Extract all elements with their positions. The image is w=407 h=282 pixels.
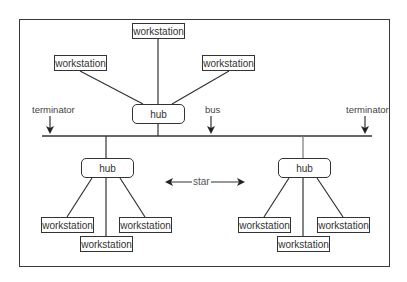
workstation-top-left: workstation [54, 55, 107, 71]
hub-top: hub [132, 104, 185, 124]
workstation-top-right: workstation [202, 55, 255, 71]
workstation-top-center: workstation [132, 23, 185, 39]
workstation-label: workstation [55, 58, 106, 69]
workstation-label: workstation [239, 220, 290, 231]
hub-label: hub [296, 163, 313, 174]
workstation-left-c: workstation [119, 217, 172, 233]
hub-left: hub [81, 158, 134, 178]
connector-lines [0, 0, 407, 282]
workstation-label: workstation [42, 220, 93, 231]
workstation-right-b: workstation [277, 236, 330, 252]
terminator-left-label: terminator [32, 104, 75, 115]
workstation-label: workstation [120, 220, 171, 231]
workstation-label: workstation [278, 239, 329, 250]
workstation-label: workstation [318, 220, 369, 231]
star-label: star [192, 176, 211, 187]
workstation-right-a: workstation [238, 217, 291, 233]
hub-label: hub [99, 163, 116, 174]
workstation-label: workstation [81, 239, 132, 250]
workstation-right-c: workstation [317, 217, 370, 233]
hub-right: hub [278, 158, 331, 178]
terminator-right-label: terminator [346, 104, 389, 115]
bus-label: bus [205, 104, 220, 115]
workstation-label: workstation [133, 26, 184, 37]
network-diagram: workstation workstation workstation hub … [0, 0, 407, 282]
workstation-left-b: workstation [80, 236, 133, 252]
workstation-left-a: workstation [41, 217, 94, 233]
hub-label: hub [150, 109, 167, 120]
workstation-label: workstation [203, 58, 254, 69]
